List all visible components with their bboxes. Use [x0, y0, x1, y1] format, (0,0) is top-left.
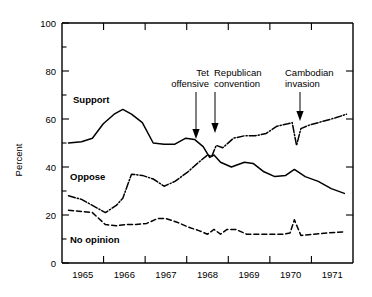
annotation-cambodian-invasion-line2: invasion — [285, 78, 320, 89]
y-tick-label: 60 — [45, 114, 56, 125]
y-tick-label: 80 — [45, 66, 56, 77]
public-opinion-line-chart: 020406080100 196519661967196819691970197… — [0, 0, 372, 297]
annotation-cambodian-invasion-line1: Cambodian — [285, 67, 334, 78]
x-tick-label: 1967 — [155, 269, 176, 280]
annotation-republican-convention-line1: Republican — [214, 67, 262, 78]
x-tick-label: 1969 — [239, 269, 260, 280]
x-tick-label: 1965 — [72, 269, 93, 280]
y-tick-label: 40 — [45, 162, 56, 173]
series-label-no-opinion: No opinion — [70, 234, 120, 245]
y-axis-title: Percent — [13, 143, 24, 176]
series-label-support: Support — [73, 94, 110, 105]
annotation-tet-offensive-line2: offensive — [171, 78, 209, 89]
chart-container: 020406080100 196519661967196819691970197… — [0, 0, 372, 297]
y-tick-label: 20 — [45, 210, 56, 221]
x-tick-label: 1966 — [114, 269, 135, 280]
annotation-republican-convention-line2: convention — [214, 78, 260, 89]
y-tick-label: 100 — [40, 18, 56, 29]
series-label-oppose: Oppose — [70, 171, 105, 182]
x-tick-label: 1971 — [322, 269, 343, 280]
x-tick-label: 1968 — [197, 269, 218, 280]
x-tick-label: 1970 — [280, 269, 301, 280]
y-tick-label: 0 — [51, 258, 56, 269]
annotation-tet-offensive-line1: Tet — [196, 67, 209, 78]
chart-background — [0, 0, 372, 297]
